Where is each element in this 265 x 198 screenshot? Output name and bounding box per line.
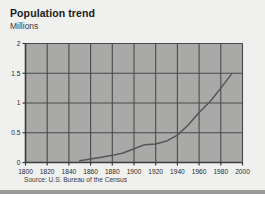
chart-source-note: Source: U.S. Bureau of the Census [24, 176, 127, 183]
x-tick-label: 1920 [148, 168, 163, 175]
y-tick-label: 1.5 [11, 70, 20, 77]
x-tick-label: 1800 [18, 168, 33, 175]
x-tick-label: 1840 [62, 168, 77, 175]
x-tick-label: 1880 [105, 168, 120, 175]
x-tick-label: 2000 [235, 168, 250, 175]
y-tick-label: 2 [17, 40, 21, 47]
chart-plot-area: 00.511.521800182018401860188019001920194… [0, 0, 265, 198]
y-tick-label: 1 [17, 99, 21, 106]
x-tick-label: 1940 [170, 168, 185, 175]
x-tick-label: 1820 [40, 168, 55, 175]
x-tick-label: 1900 [127, 168, 142, 175]
x-tick-label: 1980 [213, 168, 228, 175]
chart-screenshot: Population trend Millions 00.511.5218001… [0, 0, 265, 198]
x-tick-label: 1960 [192, 168, 207, 175]
y-tick-label: 0 [17, 159, 21, 166]
population-trend-line-chart: 00.511.521800182018401860188019001920194… [0, 0, 265, 198]
x-tick-label: 1860 [83, 168, 98, 175]
y-tick-label: 0.5 [11, 129, 20, 136]
card-bottom-edge [0, 194, 265, 198]
